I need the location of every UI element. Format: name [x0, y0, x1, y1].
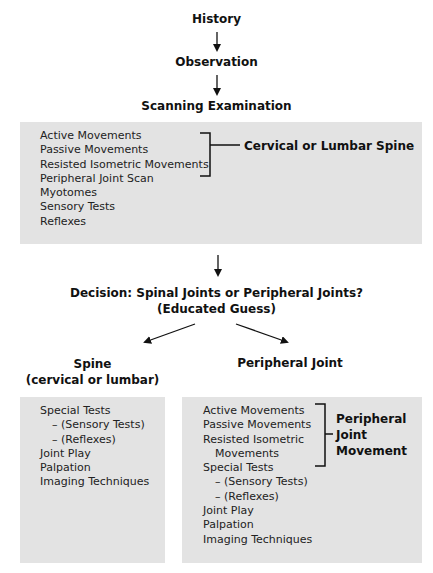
connectors [0, 0, 433, 573]
bracket-icon [200, 133, 333, 466]
arrow-down-icon [145, 32, 287, 342]
